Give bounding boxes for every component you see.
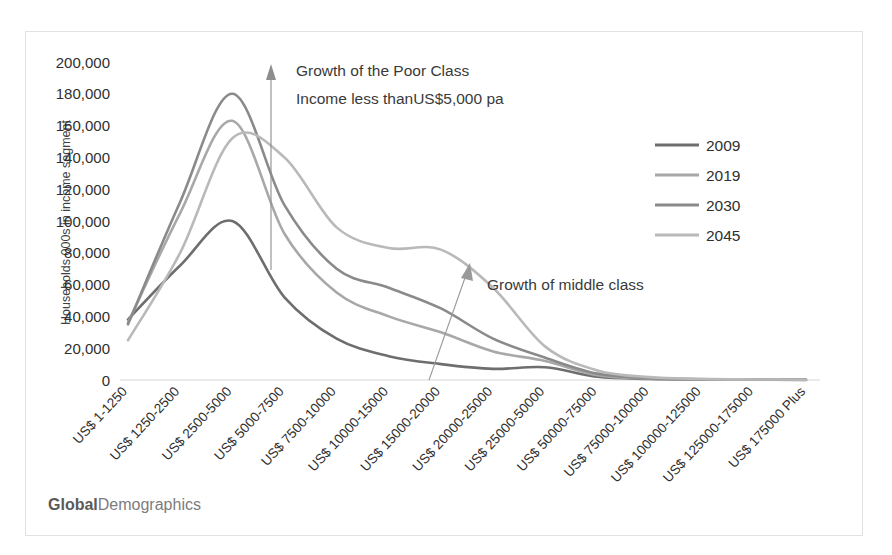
middle-class-arrow: [429, 263, 473, 380]
y-axis-tick-label: 60,000: [64, 276, 110, 293]
y-axis-tick-label: 0: [102, 372, 110, 389]
chart-canvas: Households 000s in income segment 020,00…: [0, 0, 892, 555]
watermark: GlobalDemographics: [48, 496, 201, 514]
annotation-poor-class-line1: Growth of the Poor Class: [296, 62, 469, 79]
legend-label-2045[interactable]: 2045: [706, 227, 740, 244]
series-line-2030: [128, 94, 806, 380]
data-series-layer: [128, 94, 806, 380]
y-axis-tick-label: 160,000: [56, 117, 110, 134]
x-axis-tick-label: US$ 125000-175000: [660, 384, 756, 485]
chart-legend: 2009201920302045: [655, 137, 741, 244]
y-axis-tick-label: 180,000: [56, 85, 110, 102]
line-chart-svg: Households 000s in income segment 020,00…: [0, 0, 892, 555]
legend-label-2009[interactable]: 2009: [706, 137, 740, 154]
y-axis-tick-label: 40,000: [64, 308, 110, 325]
annotation-middle-class: Growth of middle class: [487, 276, 644, 293]
y-axis-tick-label: 140,000: [56, 149, 110, 166]
y-axis-tick-label: 120,000: [56, 181, 110, 198]
series-line-2019: [128, 121, 806, 380]
legend-label-2019[interactable]: 2019: [706, 167, 740, 184]
series-line-2009: [128, 220, 806, 379]
annotation-poor-class-line2: Income less thanUS$5,000 pa: [296, 90, 504, 107]
x-axis-tick-label: US$ 100000-125000: [608, 384, 704, 485]
x-axis-tick-labels: US$ 1-1250US$ 1250-2500US$ 2500-5000US$ …: [70, 384, 808, 486]
legend-label-2030[interactable]: 2030: [706, 197, 741, 214]
y-axis-tick-label: 100,000: [56, 213, 110, 230]
y-axis-tick-label: 80,000: [64, 244, 110, 261]
y-axis-tick-label: 20,000: [64, 340, 110, 357]
watermark-bold: Global: [48, 496, 98, 513]
y-axis-tick-labels: 020,00040,00060,00080,000100,000120,0001…: [56, 54, 110, 389]
watermark-light: Demographics: [98, 496, 201, 513]
y-axis-tick-label: 200,000: [56, 54, 110, 71]
